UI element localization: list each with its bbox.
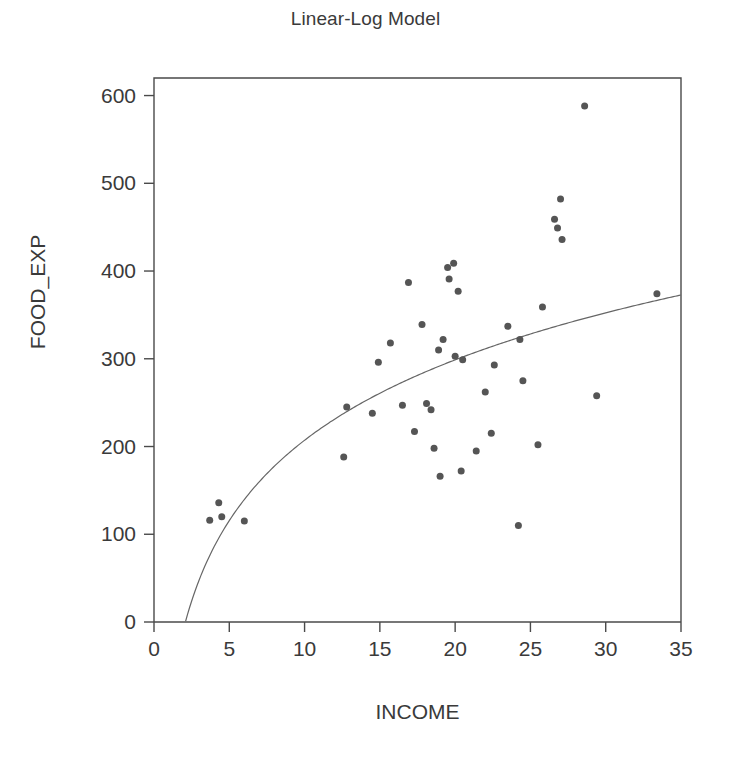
data-point bbox=[375, 359, 382, 366]
data-point bbox=[491, 361, 498, 368]
x-tick-label: 20 bbox=[443, 637, 466, 660]
data-point bbox=[504, 323, 511, 330]
data-point bbox=[206, 517, 213, 524]
data-point bbox=[534, 441, 541, 448]
y-tick-label: 200 bbox=[101, 435, 136, 458]
scatter-plot-canvas: 05101520253035 0100200300400500600 bbox=[0, 0, 731, 759]
data-point bbox=[450, 260, 457, 267]
y-tick-label: 0 bbox=[124, 610, 136, 633]
data-point bbox=[399, 402, 406, 409]
y-tick-label: 500 bbox=[101, 171, 136, 194]
data-point bbox=[539, 304, 546, 311]
data-point bbox=[340, 454, 347, 461]
x-tick-label: 15 bbox=[368, 637, 391, 660]
x-tick-label: 0 bbox=[148, 637, 160, 660]
data-point bbox=[215, 499, 222, 506]
y-tick-label: 400 bbox=[101, 259, 136, 282]
data-point bbox=[218, 513, 225, 520]
data-point bbox=[435, 347, 442, 354]
data-point bbox=[455, 288, 462, 295]
data-point bbox=[459, 356, 466, 363]
x-tick-label: 35 bbox=[669, 637, 692, 660]
x-tick-label: 5 bbox=[223, 637, 235, 660]
data-point bbox=[473, 447, 480, 454]
data-point bbox=[411, 428, 418, 435]
data-point bbox=[419, 321, 426, 328]
data-point bbox=[551, 216, 558, 223]
data-point bbox=[593, 392, 600, 399]
data-point bbox=[559, 236, 566, 243]
data-point bbox=[387, 339, 394, 346]
data-point bbox=[488, 430, 495, 437]
data-point bbox=[431, 445, 438, 452]
x-tick-label: 10 bbox=[293, 637, 316, 660]
data-point bbox=[519, 377, 526, 384]
x-axis-ticks: 05101520253035 bbox=[148, 622, 693, 660]
plot-frame bbox=[154, 78, 681, 622]
y-tick-label: 300 bbox=[101, 347, 136, 370]
x-tick-label: 25 bbox=[519, 637, 542, 660]
chart-figure: Linear-Log Model FOOD_EXP INCOME 0510152… bbox=[0, 0, 731, 759]
data-point bbox=[482, 389, 489, 396]
data-point bbox=[516, 336, 523, 343]
data-point bbox=[515, 522, 522, 529]
data-point bbox=[437, 473, 444, 480]
data-point bbox=[554, 225, 561, 232]
data-point bbox=[405, 279, 412, 286]
data-point bbox=[452, 353, 459, 360]
data-point bbox=[444, 264, 451, 271]
fit-curve bbox=[186, 295, 681, 621]
y-tick-label: 600 bbox=[101, 84, 136, 107]
y-axis-ticks: 0100200300400500600 bbox=[101, 84, 154, 633]
data-point bbox=[581, 103, 588, 110]
x-tick-label: 30 bbox=[594, 637, 617, 660]
data-point bbox=[343, 404, 350, 411]
data-point bbox=[440, 336, 447, 343]
data-point bbox=[446, 275, 453, 282]
data-point bbox=[423, 400, 430, 407]
data-point bbox=[653, 290, 660, 297]
data-point bbox=[557, 196, 564, 203]
data-point bbox=[458, 468, 465, 475]
data-point bbox=[369, 410, 376, 417]
data-point bbox=[241, 518, 248, 525]
y-tick-label: 100 bbox=[101, 522, 136, 545]
fit-curve-path bbox=[186, 295, 681, 621]
data-point bbox=[428, 406, 435, 413]
